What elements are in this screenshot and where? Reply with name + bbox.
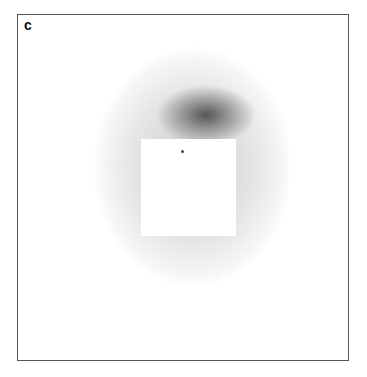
figure-panel: c <box>17 14 349 361</box>
masked-square <box>141 139 236 236</box>
center-dot-marker <box>181 150 184 153</box>
panel-label: c <box>24 17 32 33</box>
